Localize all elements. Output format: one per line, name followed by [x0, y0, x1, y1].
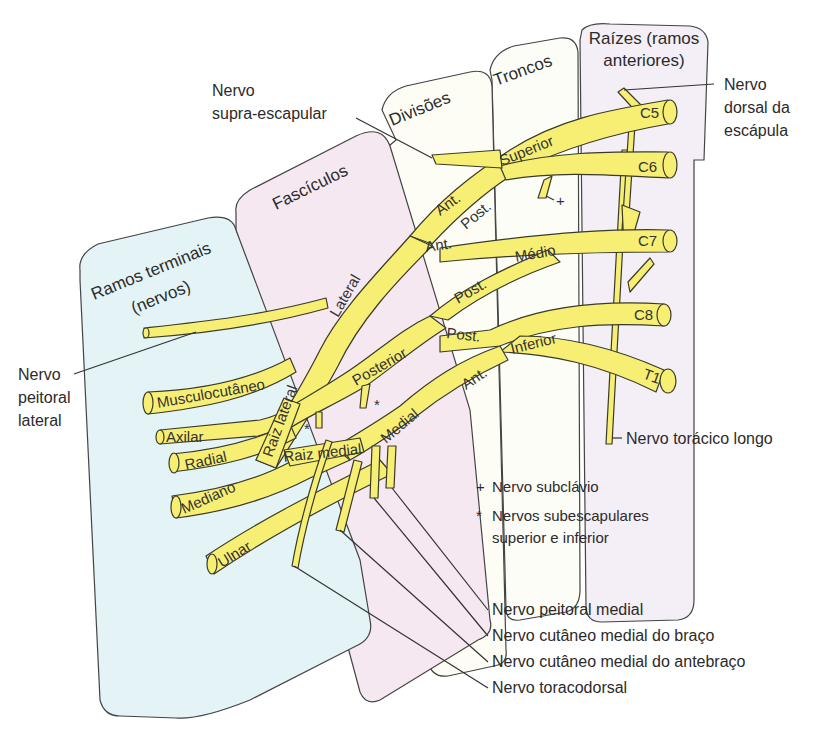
root-c7: C7: [638, 232, 657, 249]
root-c6: C6: [638, 158, 657, 175]
legend-star-symbol: *: [476, 507, 482, 524]
callout-cutaneo-braco: Nervo cutâneo medial do braço: [492, 627, 714, 644]
callout-supra-escapular-1: Nervo: [212, 82, 255, 99]
callout-dorsal-escapula-2: dorsal da: [724, 99, 790, 116]
root-c5: C5: [640, 104, 659, 121]
legend-star-text-2: superior e inferior: [492, 529, 609, 546]
division-post-inferior: Post.: [446, 324, 482, 344]
label-axilar: Axilar: [166, 428, 204, 445]
callout-peitoral-lateral-1: Nervo: [18, 366, 61, 383]
marker-star-2: *: [304, 420, 310, 437]
callout-toracodorsal: Nervo toracodorsal: [492, 679, 627, 696]
legend-plus-symbol: +: [476, 478, 485, 495]
legend-star-text-1: Nervos subescapulares: [492, 507, 649, 524]
panel-title-raizes-1: Raízes (ramos: [589, 29, 700, 48]
marker-plus-subclavio: +: [556, 192, 565, 209]
callout-peitoral-medial: Nervo peitoral medial: [492, 601, 643, 618]
callout-cutaneo-antebraco: Nervo cutâneo medial do antebraço: [492, 653, 746, 670]
root-c8: C8: [634, 306, 653, 323]
brachial-plexus-diagram: Raízes (ramos anteriores) Troncos Divisõ…: [0, 0, 828, 735]
callout-toracico-longo: Nervo torácico longo: [626, 430, 773, 447]
legend-plus-text: Nervo subclávio: [492, 478, 599, 495]
callout-peitoral-lateral-3: lateral: [18, 412, 62, 429]
callout-dorsal-escapula-3: escápula: [724, 122, 788, 139]
panel-title-raizes-2: anteriores): [603, 51, 684, 70]
callout-peitoral-lateral-2: peitoral: [18, 389, 70, 406]
callout-dorsal-escapula-1: Nervo: [724, 76, 767, 93]
marker-star-1: *: [374, 396, 380, 413]
callout-supra-escapular-2: supra-escapular: [212, 105, 327, 122]
